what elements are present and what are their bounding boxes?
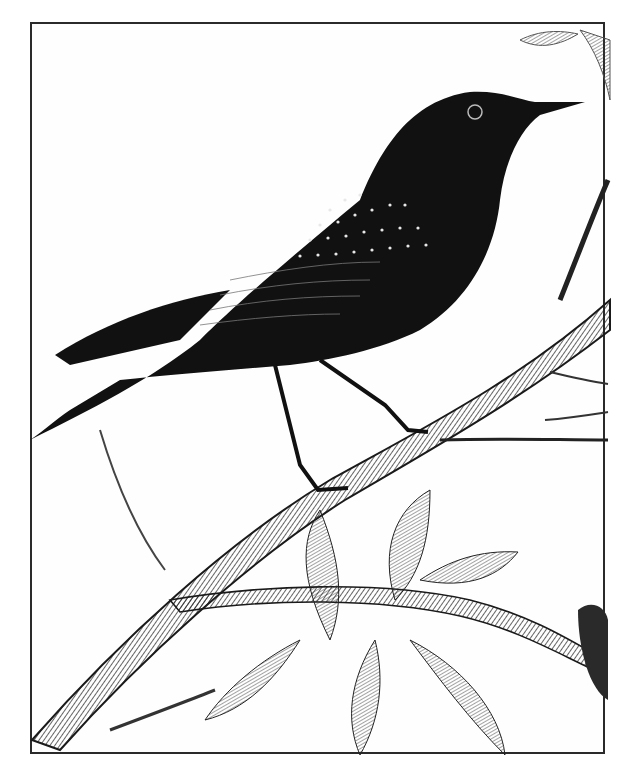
- starling-illustration: [0, 0, 629, 775]
- leg: [320, 360, 428, 432]
- leg: [275, 365, 348, 490]
- starling: [30, 92, 585, 490]
